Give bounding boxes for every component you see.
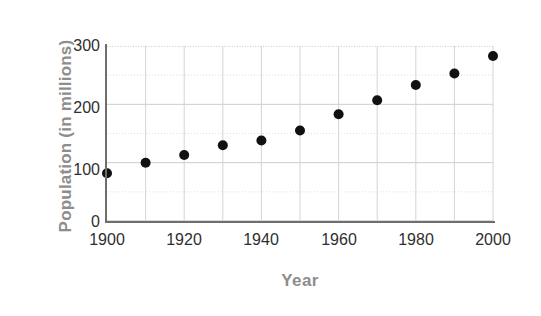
x-tick-label: 1920 <box>154 232 214 248</box>
chart-figure: Population (in millions) 300 200 100 0 <box>0 0 541 316</box>
data-point <box>372 95 382 105</box>
x-tick-label: 1900 <box>77 232 137 248</box>
x-tick-label: 1980 <box>386 232 446 248</box>
data-point <box>256 136 266 146</box>
x-axis-label: Year <box>107 271 493 291</box>
x-tick-label: 1960 <box>309 232 369 248</box>
x-axis-line <box>105 221 495 223</box>
x-tick-label: 1940 <box>231 232 291 248</box>
data-point <box>334 109 344 119</box>
y-tick-label: 300 <box>58 38 100 54</box>
y-axis-ticks: 300 200 100 0 <box>54 0 100 316</box>
data-point <box>488 51 498 61</box>
y-tick-label: 0 <box>58 214 100 230</box>
y-tick-label: 100 <box>58 162 100 178</box>
data-point <box>102 168 112 178</box>
plot-canvas <box>107 46 493 221</box>
y-axis-line <box>105 44 107 223</box>
x-tick-label: 2000 <box>463 232 523 248</box>
data-point <box>449 68 459 78</box>
plot-area <box>107 46 493 221</box>
data-point <box>411 80 421 90</box>
data-point <box>141 158 151 168</box>
y-tick-label: 200 <box>58 100 100 116</box>
data-point <box>179 150 189 160</box>
data-point <box>295 126 305 136</box>
data-point <box>218 140 228 150</box>
